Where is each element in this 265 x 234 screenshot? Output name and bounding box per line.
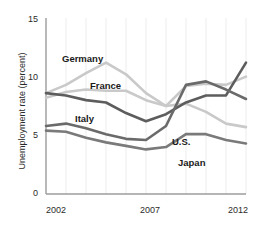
series-label-italy: Italy <box>75 113 94 124</box>
chart-figure: Unemployment rate (percent) 15 10 5 0 20… <box>0 0 265 234</box>
chart-plot <box>0 0 265 234</box>
series-label-japan: Japan <box>178 157 205 168</box>
series-label-france: France <box>90 80 121 91</box>
series-label-us: U.S. <box>172 136 190 147</box>
series-label-germany: Germany <box>62 53 103 64</box>
gridlines <box>46 18 246 194</box>
